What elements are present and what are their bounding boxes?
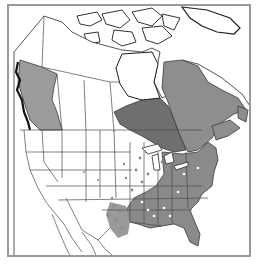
north-america-map bbox=[9, 6, 251, 257]
map-frame bbox=[7, 4, 251, 257]
greenland-outline bbox=[182, 7, 240, 34]
